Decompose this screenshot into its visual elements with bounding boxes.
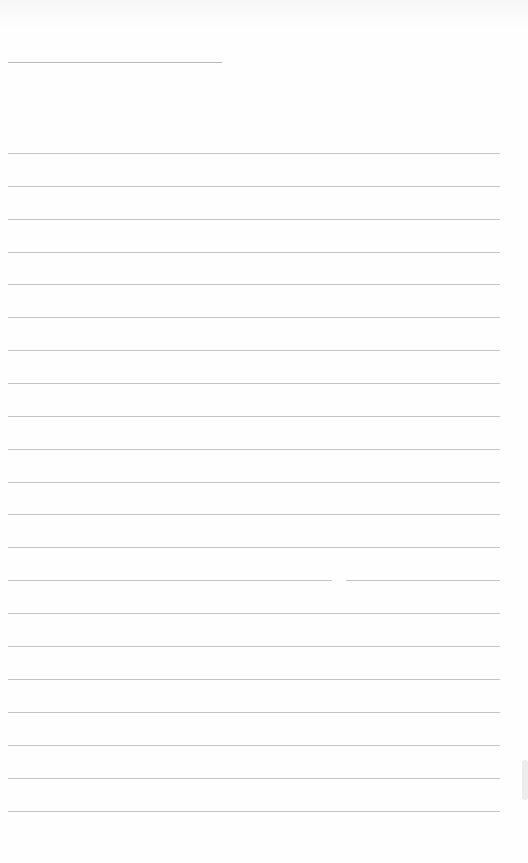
ruled-line <box>8 482 500 483</box>
ruled-line <box>8 449 500 450</box>
ruled-line <box>8 514 500 515</box>
ruled-line <box>8 712 500 713</box>
bleed-through-text <box>0 0 528 30</box>
ruled-line <box>8 778 500 779</box>
ruled-line <box>8 350 500 351</box>
ruled-line <box>8 416 500 417</box>
ruled-line <box>8 186 500 187</box>
ruled-line <box>8 252 500 253</box>
ruled-line <box>8 219 500 220</box>
ruled-line <box>8 547 500 548</box>
edge-smudge <box>522 760 528 800</box>
ruled-page <box>0 0 528 863</box>
title-line <box>8 62 222 63</box>
ruled-line <box>8 284 500 285</box>
ruled-line <box>8 613 500 614</box>
ruled-line <box>8 153 500 154</box>
ruled-line <box>8 811 500 812</box>
ruled-line <box>8 745 500 746</box>
ruled-line <box>8 580 500 581</box>
ruled-line <box>8 383 500 384</box>
ruled-line <box>8 317 500 318</box>
ruled-line <box>8 679 500 680</box>
ruled-line <box>8 646 500 647</box>
